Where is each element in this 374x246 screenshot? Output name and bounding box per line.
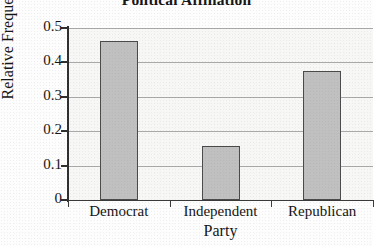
y-axis-tick bbox=[61, 27, 68, 29]
y-axis-tick-label: 0.3 bbox=[22, 87, 62, 104]
y-axis-tick bbox=[61, 61, 68, 63]
x-axis-title: Party bbox=[68, 222, 373, 240]
y-axis-tick-label: 0.1 bbox=[22, 156, 62, 173]
y-axis-tick-label: 0.4 bbox=[22, 52, 62, 69]
y-axis-tick bbox=[61, 130, 68, 132]
y-axis-tick-label: 0 bbox=[22, 190, 62, 207]
chart-title: Political Affiliation bbox=[0, 0, 373, 9]
y-axis-tick bbox=[61, 199, 68, 201]
x-axis-tick-label: Democrat bbox=[68, 203, 170, 220]
plot-area bbox=[68, 28, 373, 200]
gridline bbox=[68, 28, 373, 29]
y-axis-tick-label: 0.2 bbox=[22, 121, 62, 138]
y-axis-tick bbox=[61, 96, 68, 98]
y-axis-tick bbox=[61, 165, 68, 167]
x-axis-tick-label: Independent bbox=[170, 203, 272, 220]
bar bbox=[303, 71, 341, 200]
x-axis-tick-label: Republican bbox=[271, 203, 373, 220]
bar bbox=[100, 41, 138, 200]
y-axis-title: Relative Frequency bbox=[0, 0, 19, 125]
bar bbox=[202, 146, 240, 200]
gridline bbox=[68, 200, 373, 201]
y-axis-spine bbox=[67, 26, 69, 202]
y-axis-tick-label: 0.5 bbox=[22, 18, 62, 35]
